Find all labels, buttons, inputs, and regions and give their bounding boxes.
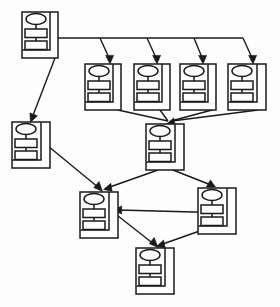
diagram-svg bbox=[0, 0, 280, 307]
node-branch-1[interactable] bbox=[85, 64, 121, 110]
edge-root-to-branch-4[interactable] bbox=[243, 38, 257, 64]
edge-root-to-branch-1[interactable] bbox=[100, 38, 114, 64]
node-right-lower[interactable] bbox=[198, 188, 236, 234]
edge-center-to-left-lower[interactable] bbox=[104, 170, 159, 191]
edge-branch-3-to-center[interactable] bbox=[171, 110, 212, 121]
node-root[interactable] bbox=[22, 12, 58, 58]
node-center-middle[interactable] bbox=[146, 124, 184, 170]
edge-left-middle-to-left-lower[interactable] bbox=[48, 146, 103, 192]
node-branch-4[interactable] bbox=[228, 64, 266, 110]
node-branch-2[interactable] bbox=[134, 64, 170, 110]
node-left-middle[interactable] bbox=[12, 122, 50, 168]
node-left-lower[interactable] bbox=[80, 192, 118, 238]
edge-root-to-branch-3[interactable] bbox=[194, 38, 207, 64]
edge-center-to-right-lower[interactable] bbox=[173, 170, 216, 187]
node-branch-3[interactable] bbox=[180, 64, 216, 110]
edge-left-lower-to-bottom[interactable] bbox=[113, 212, 158, 248]
edge-root-to-branch-2[interactable] bbox=[147, 38, 161, 64]
diagram-canvas bbox=[0, 0, 280, 307]
edge-root-to-left-middle[interactable] bbox=[30, 58, 55, 123]
node-bottom[interactable] bbox=[136, 248, 174, 294]
